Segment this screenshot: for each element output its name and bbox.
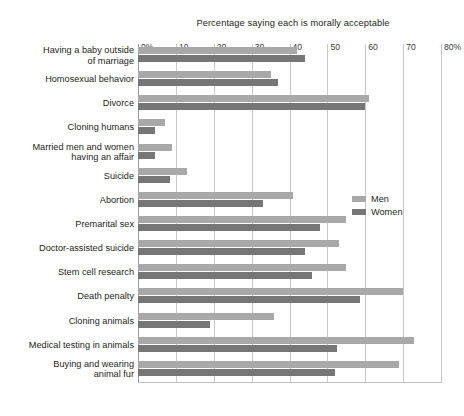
bar-men <box>138 119 165 126</box>
legend-item-men: Men <box>352 192 422 205</box>
bar-women <box>138 369 335 376</box>
bar-women <box>138 55 305 62</box>
category-label: Divorce <box>2 98 134 109</box>
bar-group <box>138 71 441 91</box>
bar-group <box>138 47 441 67</box>
bar-men <box>138 192 293 199</box>
category-label: Stem cell research <box>2 267 134 278</box>
bar-men <box>138 288 403 295</box>
bar-group <box>138 168 441 188</box>
chart-legend: Men Women <box>352 192 422 218</box>
bar-group <box>138 240 441 260</box>
category-label: Suicide <box>2 171 134 182</box>
axis-bottom-rule <box>138 382 442 383</box>
bar-group <box>138 144 441 164</box>
bar-men <box>138 71 271 78</box>
bar-women <box>138 103 365 110</box>
bar-group <box>138 313 441 333</box>
bar-women <box>138 345 337 352</box>
legend-swatch-men-icon <box>352 196 366 202</box>
legend-swatch-women-icon <box>352 209 366 215</box>
category-label: Cloning animals <box>2 316 134 327</box>
bar-men <box>138 144 172 151</box>
category-label: Death penalty <box>2 291 134 302</box>
bar-men <box>138 216 346 223</box>
bar-men <box>138 168 187 175</box>
legend-item-women: Women <box>352 205 422 218</box>
bar-group <box>138 337 441 357</box>
bar-men <box>138 240 339 247</box>
category-label: Premarital sex <box>2 219 134 230</box>
figure-container: Percentage saying each is morally accept… <box>0 0 464 416</box>
bar-men <box>138 313 274 320</box>
category-label: Having a baby outside of marriage <box>2 45 134 66</box>
bar-group <box>138 264 441 284</box>
bar-women <box>138 321 210 328</box>
bar-men <box>138 361 399 368</box>
bar-men <box>138 264 346 271</box>
chart-title: Percentage saying each is morally accept… <box>138 18 448 28</box>
bar-women <box>138 127 155 134</box>
category-label: Doctor-assisted suicide <box>2 243 134 254</box>
gridline-80 <box>441 44 442 382</box>
bar-group <box>138 95 441 115</box>
bar-men <box>138 95 369 102</box>
bar-men <box>138 337 414 344</box>
bar-group <box>138 216 441 236</box>
bar-group <box>138 119 441 139</box>
category-label: Cloning humans <box>2 122 134 133</box>
bar-women <box>138 296 360 303</box>
category-label: Homosexual behavior <box>2 74 134 85</box>
bar-women <box>138 79 278 86</box>
bar-women <box>138 272 312 279</box>
bar-group <box>138 288 441 308</box>
legend-label-women: Women <box>371 207 403 217</box>
bar-women <box>138 176 170 183</box>
category-label: Married men and women having an affair <box>2 142 134 163</box>
bar-women <box>138 200 263 207</box>
bar-women <box>138 224 320 231</box>
bar-women <box>138 248 305 255</box>
category-label: Medical testing in animals <box>2 340 134 351</box>
category-label: Buying and wearing animal fur <box>2 359 134 380</box>
bar-men <box>138 47 297 54</box>
bar-group <box>138 361 441 381</box>
x-tick-80: 80% <box>444 42 461 52</box>
category-axis-labels: Having a baby outside of marriageHomosex… <box>0 44 134 382</box>
category-label: Abortion <box>2 195 134 206</box>
legend-label-men: Men <box>371 194 389 204</box>
bar-women <box>138 152 155 159</box>
